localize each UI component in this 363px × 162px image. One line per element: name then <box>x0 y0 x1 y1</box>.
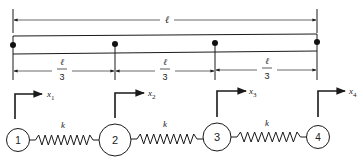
label-x2: x2 <box>147 88 156 101</box>
arrow-x3-icon <box>217 91 246 117</box>
displacement-arrows: x1 x2 x3 x4 <box>15 86 357 119</box>
masses: 1 2 3 4 <box>7 123 330 156</box>
displacement-x1: x1 <box>15 89 55 119</box>
mass-4-label: 4 <box>315 132 321 143</box>
seg3-denominator: 3 <box>264 71 269 81</box>
seg1-numerator: ℓ <box>60 57 64 67</box>
seg3-numerator: ℓ <box>265 56 269 66</box>
seg1-denominator: 3 <box>59 72 64 82</box>
spring-1-icon <box>30 135 100 145</box>
node-point-1 <box>10 42 16 48</box>
arrow-x2-icon <box>115 93 144 118</box>
arrow-x1-icon <box>15 94 42 119</box>
mass-1: 1 <box>7 129 30 152</box>
beam-to-spring-mass-diagram: ℓ ℓ 3 ℓ 3 ℓ 3 x1 <box>0 0 363 162</box>
spring-2-icon <box>131 134 203 144</box>
seg2-denominator: 3 <box>162 72 167 82</box>
mass-2: 2 <box>99 124 131 156</box>
spring-3-label: k <box>265 118 270 128</box>
label-x4: x4 <box>348 86 357 99</box>
mass-3-label: 3 <box>214 131 220 143</box>
arrow-x4-icon <box>318 91 345 117</box>
beam-bottom-edge <box>13 51 317 54</box>
springs: k k k <box>30 118 307 145</box>
mass-2-label: 2 <box>112 134 118 146</box>
spring-2-label: k <box>163 119 168 129</box>
segment-dimensions: ℓ 3 ℓ 3 ℓ 3 <box>14 56 316 82</box>
mass-4: 4 <box>307 126 330 149</box>
node-point-3 <box>212 40 218 46</box>
label-x3: x3 <box>248 86 257 99</box>
displacement-x4: x4 <box>318 86 357 117</box>
displacement-x2: x2 <box>115 88 156 118</box>
mass-3: 3 <box>203 123 231 151</box>
node-point-4 <box>314 39 320 45</box>
node-point-2 <box>112 41 118 47</box>
beam-top-edge <box>13 34 317 36</box>
mass-1-label: 1 <box>15 135 21 146</box>
total-length-label: ℓ <box>165 14 169 25</box>
spring-3-icon <box>231 132 307 142</box>
spring-1-label: k <box>61 120 66 130</box>
label-x1: x1 <box>46 89 55 102</box>
displacement-x3: x3 <box>217 86 257 117</box>
seg2-numerator: ℓ <box>163 57 167 67</box>
total-length-dimension: ℓ <box>13 9 317 33</box>
